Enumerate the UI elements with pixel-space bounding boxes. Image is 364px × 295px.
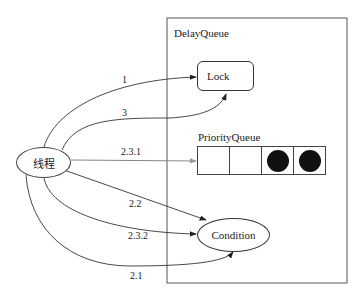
edge-label-2-3-2: 2.3.2 <box>128 230 148 242</box>
lock-label: Lock <box>207 70 230 82</box>
lock-node: Lock <box>197 61 254 91</box>
queue-cell-empty <box>197 146 230 175</box>
priorityqueue-title: PriorityQueue <box>198 131 260 143</box>
edge-2-3-2 <box>44 178 196 234</box>
condition-node: Condition <box>197 218 270 252</box>
thread-node: 线程 <box>16 147 71 178</box>
queue-cell-empty <box>229 146 262 175</box>
edge-2-1 <box>26 175 233 266</box>
condition-label: Condition <box>211 229 255 241</box>
priorityqueue-node <box>197 146 325 175</box>
edge-label-2-2: 2.2 <box>129 198 142 210</box>
edge-label-1: 1 <box>122 74 127 86</box>
edge-label-3: 3 <box>122 107 127 119</box>
edge-label-2-1: 2.1 <box>130 270 143 282</box>
queue-cell-filled <box>293 146 326 175</box>
edge-label-2-3-1: 2.3.1 <box>121 146 141 158</box>
edge-2-2 <box>64 170 206 220</box>
element-dot-icon <box>267 150 289 172</box>
edge-1 <box>44 77 196 147</box>
element-dot-icon <box>299 150 321 172</box>
edge-2-3-1 <box>71 160 196 161</box>
thread-label: 线程 <box>33 155 55 171</box>
queue-cell-filled <box>261 146 294 175</box>
delayqueue-title: DelayQueue <box>174 27 229 39</box>
